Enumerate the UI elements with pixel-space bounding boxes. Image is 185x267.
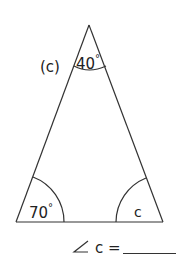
degree-symbol: ° <box>48 202 53 213</box>
answer-blank[interactable] <box>123 252 176 254</box>
answer-equals: = <box>108 239 121 257</box>
bottom-left-angle-value: 70 <box>29 204 48 222</box>
bottom-right-angle-value: c <box>134 204 142 220</box>
problem-label: (c) <box>40 60 60 75</box>
answer-variable: c <box>95 239 103 257</box>
degree-symbol: ° <box>95 53 100 64</box>
bottom-right-angle-label: c <box>134 205 142 219</box>
triangle-diagram <box>0 0 185 267</box>
problem-label-text: (c) <box>40 58 60 76</box>
apex-angle-value: 40 <box>76 55 95 73</box>
apex-angle-label: 40° <box>76 57 100 72</box>
answer-prompt: c = <box>95 241 121 256</box>
angle-symbol-icon <box>74 241 88 252</box>
bottom-left-angle-label: 70° <box>29 206 53 221</box>
